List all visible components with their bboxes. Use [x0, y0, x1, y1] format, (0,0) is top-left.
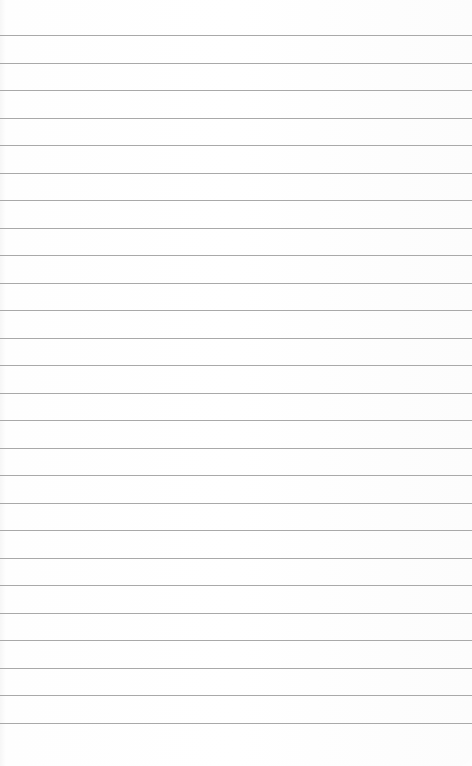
ruled-line — [0, 448, 472, 449]
ruled-line — [0, 145, 472, 146]
ruled-line — [0, 393, 472, 394]
ruled-line — [0, 338, 472, 339]
ruled-line — [0, 35, 472, 36]
ruled-line — [0, 723, 472, 724]
ruled-line — [0, 530, 472, 531]
lined-paper-sheet — [0, 0, 472, 766]
ruled-line — [0, 200, 472, 201]
ruled-line — [0, 420, 472, 421]
ruled-line — [0, 228, 472, 229]
ruled-line — [0, 283, 472, 284]
ruled-line — [0, 695, 472, 696]
ruled-line — [0, 613, 472, 614]
ruled-line — [0, 173, 472, 174]
ruled-line — [0, 63, 472, 64]
ruled-line — [0, 668, 472, 669]
ruled-line — [0, 90, 472, 91]
ruled-line — [0, 365, 472, 366]
ruled-line — [0, 640, 472, 641]
ruled-line — [0, 475, 472, 476]
ruled-line — [0, 503, 472, 504]
ruled-line — [0, 585, 472, 586]
ruled-line — [0, 255, 472, 256]
ruled-line — [0, 558, 472, 559]
ruled-line — [0, 118, 472, 119]
ruled-line — [0, 310, 472, 311]
